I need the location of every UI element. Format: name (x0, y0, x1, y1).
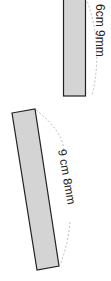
bar-2-measure-line-bottom (60, 222, 70, 265)
bar-1-label: 6cm 9mm (93, 4, 107, 57)
bar-1-rect (64, 0, 86, 96)
bar-2: 9 cm 8mm (12, 109, 79, 270)
bar-2-label: 9 cm 8mm (55, 148, 79, 206)
bar-1: 6cm 9mm (64, 0, 108, 96)
bar-2-rect (12, 109, 59, 270)
diagram-canvas: 6cm 9mm 9 cm 8mm (0, 0, 111, 281)
